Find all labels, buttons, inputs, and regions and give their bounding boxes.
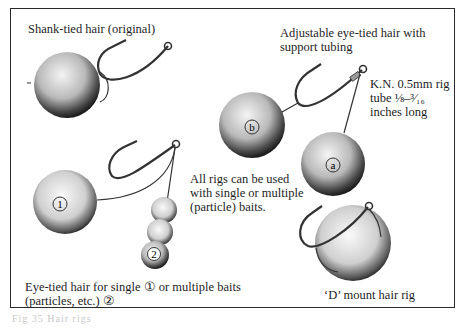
boilie-bait — [34, 52, 100, 118]
label-eye-tied-line2: (particles, etc.) ② — [25, 294, 115, 308]
label-all-rigs-line1: All rigs can be used — [190, 172, 289, 186]
eye-tied-rig: 1 2 — [33, 141, 180, 270]
label-shank-tied: Shank-tied hair (original) — [28, 22, 155, 36]
label-tube-line2: tube ⅛–³⁄₁₆ — [370, 91, 425, 105]
single-bait — [33, 170, 97, 234]
d-mount-rig — [300, 203, 391, 282]
hook-icon — [296, 64, 362, 106]
label-d-mount: ‘D’ mount hair rig — [324, 288, 415, 302]
label-adjustable-line1: Adjustable eye-tied hair with — [280, 26, 425, 40]
label-eye-tied-line1: Eye-tied hair for single ① or multiple b… — [25, 280, 241, 294]
marker-a: a — [331, 159, 336, 171]
particle-bait — [147, 219, 173, 245]
figure-caption: Fig 35 Hair rigs — [12, 313, 92, 324]
marker-2: 2 — [151, 248, 157, 260]
shank-tied-rig — [27, 40, 172, 118]
label-tube-line3: inches long — [370, 105, 427, 119]
label-all-rigs-line2: with single or multiple — [190, 186, 304, 200]
label-all-rigs-line3: (particle) baits. — [190, 200, 266, 214]
hair-rigs-illustration: b a 1 2 — [0, 0, 467, 328]
particle-bait — [151, 197, 177, 223]
hook-icon — [98, 40, 168, 80]
marker-b: b — [249, 121, 255, 133]
label-adjustable-line2: support tubing — [280, 40, 353, 54]
marker-1: 1 — [57, 198, 63, 210]
label-tube-line1: K.N. 0.5mm rig — [370, 77, 450, 91]
